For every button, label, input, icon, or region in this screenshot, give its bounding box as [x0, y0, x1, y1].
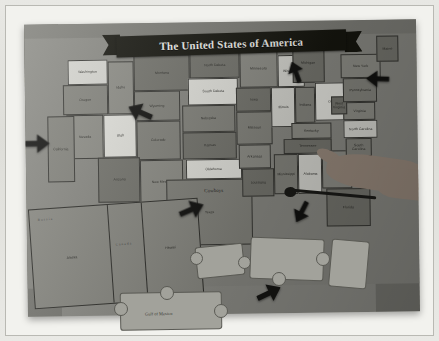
label-canada-inset: Canada: [115, 241, 132, 246]
state-california[interactable]: California: [47, 116, 75, 182]
state-utah[interactable]: Utah: [103, 114, 137, 157]
state-arizona[interactable]: Arizona: [98, 157, 141, 203]
state-label: Oklahoma: [206, 167, 222, 171]
state-oregon[interactable]: Oregon: [63, 85, 108, 116]
state-label: Missouri: [248, 126, 262, 130]
state-label: New York: [353, 64, 368, 68]
state-label: Virginia: [353, 109, 365, 113]
label-gulf-of-mexico: Gulf of Mexico: [145, 311, 172, 316]
state-label: Alaska: [67, 255, 78, 260]
state-kansas[interactable]: Kansas: [183, 132, 237, 160]
state-arkansas[interactable]: Arkansas: [239, 144, 271, 168]
state-label: Washington: [78, 70, 97, 75]
state-north-dakota[interactable]: North Dakota: [189, 52, 239, 79]
photograph: Canada MEXICO Washington Oregon Idaho Mo…: [0, 0, 439, 341]
map-title-text: The United States of America: [159, 35, 303, 52]
state-label: Kentucky: [304, 129, 319, 133]
state-north-carolina[interactable]: North Carolina: [343, 120, 377, 138]
state-iowa[interactable]: Iowa: [236, 87, 271, 111]
state-label: Wyoming: [150, 104, 165, 108]
state-label: South Carolina: [347, 143, 370, 152]
state-alabama[interactable]: Alabama: [298, 154, 323, 194]
cable-connector: [284, 187, 296, 197]
state-indiana[interactable]: Indiana: [295, 87, 316, 123]
state-label: Louisiana: [250, 180, 266, 184]
state-label: Oregon: [80, 98, 92, 102]
state-missouri[interactable]: Missouri: [236, 111, 272, 144]
state-label: Hawaii: [165, 245, 176, 250]
state-label: Montana: [155, 71, 169, 75]
state-minnesota[interactable]: Minnesota: [239, 49, 278, 88]
state-kentucky[interactable]: Kentucky: [291, 122, 331, 139]
state-label: Nebraska: [201, 116, 216, 120]
state-oklahoma[interactable]: Oklahoma: [186, 159, 242, 180]
state-louisiana[interactable]: Louisiana: [242, 168, 274, 196]
state-label: South Dakota: [202, 89, 224, 94]
label-russia: Russia: [38, 217, 54, 222]
state-label: Alabama: [303, 172, 317, 176]
state-label: Idaho: [116, 86, 125, 90]
piece-knob-6: [214, 304, 228, 318]
piece-knob-1: [190, 252, 203, 265]
state-montana[interactable]: Montana: [133, 54, 189, 91]
loose-puzzle-piece-2[interactable]: [249, 237, 324, 282]
state-label: Mississippi: [277, 172, 295, 177]
piece-knob-3: [316, 252, 330, 266]
state-alaska[interactable]: Alaska: [34, 219, 111, 296]
piece-knob-7: [160, 286, 174, 300]
state-label: Tennessee: [299, 144, 316, 149]
loose-puzzle-piece-3[interactable]: [328, 238, 370, 289]
state-virginia[interactable]: Virginia: [343, 102, 375, 120]
state-south-dakota[interactable]: South Dakota: [188, 78, 238, 106]
state-label: Texas: [205, 210, 214, 214]
state-label: Indiana: [299, 103, 311, 107]
state-label: Michigan: [301, 61, 315, 65]
state-label: Kansas: [204, 143, 216, 147]
state-label: Illinois: [278, 105, 288, 109]
state-label: Maine: [382, 46, 392, 50]
state-colorado[interactable]: Colorado: [136, 121, 181, 161]
state-nebraska[interactable]: Nebraska: [182, 105, 235, 133]
state-illinois[interactable]: Illinois: [271, 87, 296, 127]
state-label: Nevada: [79, 135, 91, 139]
piece-knob-4: [272, 272, 286, 286]
state-label: Arizona: [113, 178, 125, 182]
state-label: Minnesota: [250, 66, 267, 70]
piece-knob-5: [114, 302, 128, 316]
state-label: Colorado: [151, 138, 166, 142]
state-label: North Dakota: [204, 63, 225, 68]
state-label: Arkansas: [247, 154, 262, 158]
state-washington[interactable]: Washington: [67, 60, 107, 86]
state-maine[interactable]: Maine: [376, 36, 398, 62]
state-label: West Virginia: [332, 101, 345, 110]
state-label: Florida: [343, 205, 354, 209]
state-label: Iowa: [250, 97, 258, 101]
state-label: California: [54, 147, 69, 151]
state-label: Utah: [116, 134, 124, 138]
state-label: Pennsylvania: [349, 88, 371, 93]
state-label: North Carolina: [349, 127, 372, 132]
state-hawaii[interactable]: Hawaii: [146, 221, 195, 274]
